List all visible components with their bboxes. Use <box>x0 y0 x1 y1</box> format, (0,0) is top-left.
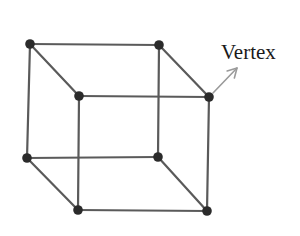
vertex-back-top-left <box>25 39 35 49</box>
vertex-back-bottom-left <box>22 153 32 163</box>
vertex-front-top-right <box>204 92 214 102</box>
vertex-front-bottom-left <box>73 205 83 215</box>
edge-back-bottom-left-to-front-bottom-left <box>27 158 78 210</box>
vertex-back-bottom-right <box>153 152 163 162</box>
edge-back-top-left-to-front-top-left <box>30 44 79 96</box>
edge-back-bottom-right-to-front-bottom-right <box>158 157 207 211</box>
vertex-front-top-left <box>74 91 84 101</box>
edge-back-top-right-to-back-bottom-right <box>158 45 159 157</box>
edge-front-top-left-to-front-top-right <box>79 96 209 97</box>
edge-back-bottom-right-to-back-bottom-left <box>27 157 158 158</box>
vertex-label: Vertex <box>221 40 276 64</box>
edge-front-bottom-right-to-front-bottom-left <box>78 210 207 211</box>
cube-edges <box>27 44 209 211</box>
vertex-annotation: Vertex <box>213 40 276 93</box>
cube-diagram: Vertex <box>0 0 300 236</box>
edge-front-bottom-left-to-front-top-left <box>78 96 79 210</box>
vertex-front-bottom-right <box>202 206 212 216</box>
arrow-icon <box>213 68 237 93</box>
edge-back-bottom-left-to-back-top-left <box>27 44 30 158</box>
vertex-back-top-right <box>154 40 164 50</box>
edge-back-top-right-to-front-top-right <box>159 45 209 97</box>
edge-back-top-left-to-back-top-right <box>30 44 159 45</box>
edge-front-top-right-to-front-bottom-right <box>207 97 209 211</box>
